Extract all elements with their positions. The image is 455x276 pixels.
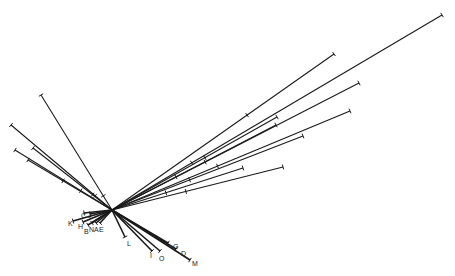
- branch-node-tick: [185, 189, 186, 194]
- leaf-label-l: L: [127, 240, 131, 247]
- branch-line: [112, 15, 442, 210]
- branch-line: [33, 148, 112, 210]
- leaf-label-h: H: [78, 223, 83, 230]
- branch-line: [112, 168, 243, 210]
- leaf-label-i: I: [150, 252, 152, 259]
- tree-diagram: CJKHBNAELIOGDM: [0, 0, 455, 276]
- branch-end-tick: [333, 52, 336, 56]
- leaf-label-k: K: [68, 220, 73, 227]
- branch-line: [112, 117, 277, 210]
- leaf-branch: [112, 210, 160, 251]
- branch-line: [28, 160, 112, 210]
- branch-node-tick: [246, 113, 249, 117]
- leaf-label-m: M: [192, 260, 198, 267]
- branch-end-tick: [282, 165, 283, 170]
- leaf-label-o: O: [159, 255, 165, 262]
- branch-line: [11, 125, 112, 210]
- leaf-label-e: E: [99, 226, 104, 233]
- branch-line: [112, 167, 283, 210]
- tree-leaves: CJKHBNAELIOGDM: [68, 210, 198, 267]
- branch-line: [41, 95, 112, 210]
- tree-branches: [9, 13, 443, 210]
- branch-line: [112, 136, 303, 210]
- branch-line: [112, 125, 276, 210]
